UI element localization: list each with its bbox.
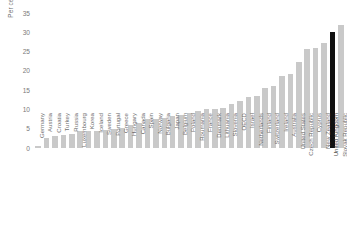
bar-chart: Per cent of average wage 05101520253035 … — [0, 0, 347, 228]
y-axis-tick-label: 10 — [2, 106, 30, 113]
y-axis-tick-label: 30 — [2, 29, 30, 36]
x-label-slot: Belgium — [177, 148, 185, 228]
x-label-slot: Portugal — [110, 148, 118, 228]
x-label-slot: Australia — [286, 148, 294, 228]
x-label-slot: Hungary — [126, 148, 134, 228]
x-label-slot: Korea — [84, 148, 92, 228]
x-label-slot: New Zealand — [320, 148, 328, 228]
y-axis-tick-label: 5 — [2, 125, 30, 132]
x-label-slot: Croatia — [51, 148, 59, 228]
x-label-slot: Turkey — [59, 148, 67, 228]
x-label-slot: Austria — [42, 148, 50, 228]
y-axis-tick-label: 0 — [2, 145, 30, 152]
x-label-slot: OECD — [236, 148, 244, 228]
x-label-slot: Roumania — [194, 148, 202, 228]
x-label-slot: Luxembourg — [76, 148, 84, 228]
y-axis-tick-label: 25 — [2, 48, 30, 55]
x-label-slot: Slovak Republic — [337, 148, 345, 228]
x-axis-labels: GermanyAustriaCroatiaTurkeyRussiaLuxembo… — [34, 148, 345, 228]
y-axis-tick-label: 20 — [2, 67, 30, 74]
x-label-slot: Bulgaria — [160, 148, 168, 228]
x-label-slot: Switzerland — [269, 148, 277, 228]
x-label-slot: Norway — [152, 148, 160, 228]
x-label-slot: France — [202, 148, 210, 228]
y-axis-tick-label: 35 — [2, 10, 30, 17]
x-label-slot: Finland — [261, 148, 269, 228]
y-axis-tick-label: 15 — [2, 87, 30, 94]
x-label-slot: Germany — [34, 148, 42, 228]
x-label-slot: Netherlands — [253, 148, 261, 228]
x-axis-tick-label: Slovak Republic — [341, 113, 347, 187]
x-label-slot: Iceland — [93, 148, 101, 228]
x-label-slot: Cyprus — [311, 148, 319, 228]
x-label-slot: Czech Republic — [303, 148, 311, 228]
x-label-slot: Russia — [68, 148, 76, 228]
x-label-slot: Sweden — [101, 148, 109, 228]
x-label-slot: Slovenia — [227, 148, 235, 228]
x-label-slot: Israel — [244, 148, 252, 228]
x-label-slot: United Kingdom — [328, 148, 336, 228]
x-label-slot: Poland — [185, 148, 193, 228]
x-label-slot: Greece — [118, 148, 126, 228]
x-label-slot: Japan — [169, 148, 177, 228]
x-label-slot: Spain — [143, 148, 151, 228]
x-label-slot: United States — [295, 148, 303, 228]
x-label-slot: Ireland — [278, 148, 286, 228]
x-label-slot: Canada — [135, 148, 143, 228]
y-axis-ticks: 05101520253035 — [0, 0, 34, 155]
x-label-slot: Lithuania — [219, 148, 227, 228]
x-label-slot: Denmark — [211, 148, 219, 228]
